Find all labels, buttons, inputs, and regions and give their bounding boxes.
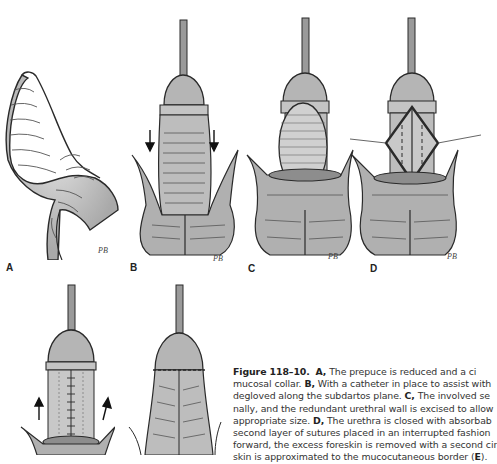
panel-label-d: D bbox=[370, 263, 377, 274]
caption-line: second layer of sutures placed in an int… bbox=[233, 427, 493, 439]
illustration-panel-d bbox=[350, 15, 481, 260]
panel-label-a: A bbox=[6, 262, 13, 273]
panel-label-b: B bbox=[130, 262, 137, 273]
illustration-panel-c bbox=[245, 15, 355, 260]
illustration-panel-f bbox=[125, 282, 225, 455]
caption-line: degloved along the subdartos plane. C, T… bbox=[233, 390, 493, 402]
caption-line: forward, the excess foreskin is removed … bbox=[233, 439, 493, 451]
artist-signature-c: PB bbox=[328, 252, 338, 261]
artist-signature-b: PB bbox=[213, 254, 223, 263]
artist-signature-d: PB bbox=[447, 252, 457, 261]
illustration-panel-e bbox=[15, 282, 115, 455]
figure-caption: Figure 118–10. A, The prepuce is reduced… bbox=[233, 366, 493, 464]
artist-signature-a: PB bbox=[98, 246, 108, 255]
illustration-panel-b bbox=[130, 15, 240, 260]
panel-label-c: C bbox=[248, 263, 255, 274]
caption-line: appropriate size. D, The urethra is clos… bbox=[233, 415, 493, 427]
illustration-panel-a bbox=[0, 60, 125, 260]
caption-line: mucosal collar. B, With a catheter in pl… bbox=[233, 378, 493, 390]
caption-line: skin is approximated to the mucocutaneou… bbox=[233, 451, 493, 463]
caption-line: Figure 118–10. A, The prepuce is reduced… bbox=[233, 366, 493, 378]
caption-line: nally, and the redundant urethral wall i… bbox=[233, 403, 493, 415]
